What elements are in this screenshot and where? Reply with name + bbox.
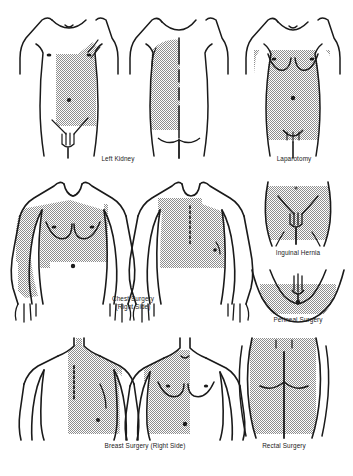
figure-chest-surgery-posterior <box>128 180 256 308</box>
figure-inguinal-hernia <box>254 182 342 248</box>
figure-left-kidney-posterior <box>122 8 234 158</box>
figure-laparotomy <box>238 8 346 158</box>
illustration-sheet: Left Kidney <box>0 0 353 476</box>
caption-rectal-surgery: Rectal Surgery <box>236 442 332 450</box>
figure-chest-surgery-anterior <box>8 180 138 308</box>
caption-laparotomy: Laparotomy <box>244 155 344 163</box>
caption-breast-surgery: Breast Surgery (Right Side) <box>65 442 225 450</box>
caption-chest-surgery-line2: (Right Side) <box>85 303 181 311</box>
caption-inguinal-hernia: Inguinal Hernia <box>250 249 346 257</box>
caption-chest-surgery: Chest Surgery (Right Side) <box>85 295 181 311</box>
caption-left-kidney: Left Kidney <box>68 155 168 163</box>
caption-perineal-surgery: Perineal Surgery <box>248 316 348 324</box>
figure-left-kidney-anterior <box>12 8 124 158</box>
figure-breast-surgery-posterior <box>18 338 140 440</box>
figure-breast-surgery-anterior <box>128 338 248 440</box>
figure-rectal-surgery <box>236 338 332 440</box>
caption-chest-surgery-line1: Chest Surgery <box>85 295 181 303</box>
